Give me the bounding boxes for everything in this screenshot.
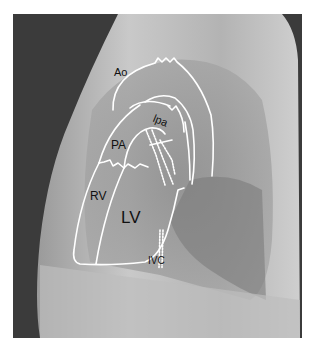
xray-image: Ao lpa PA RV LV IVC xyxy=(13,14,302,338)
label-inferior-vena-cava: IVC xyxy=(148,255,165,266)
label-left-ventricle: LV xyxy=(121,208,141,228)
xray-drawing xyxy=(13,14,302,338)
label-pulmonary-artery: PA xyxy=(111,138,126,152)
label-right-ventricle: RV xyxy=(90,189,106,203)
label-aorta: Ao xyxy=(114,66,127,78)
